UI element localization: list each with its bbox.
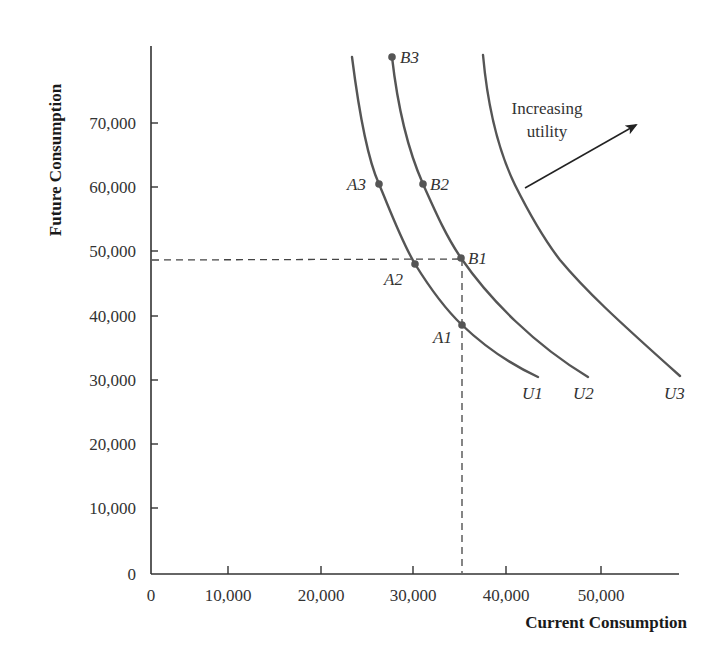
y-tick-label: 30,000 — [89, 371, 136, 390]
point-a2 — [411, 260, 419, 268]
indifference-curve-chart: 0 10,000 20,000 30,000 40,000 50,000 60,… — [0, 0, 716, 660]
label-b2: B2 — [430, 175, 449, 194]
label-u2: U2 — [573, 384, 594, 403]
label-a1: A1 — [432, 328, 452, 347]
y-tick-label: 60,000 — [89, 178, 136, 197]
x-tick-labels: 0 10,000 20,000 30,000 40,000 50,000 — [147, 586, 625, 605]
x-tick-label: 10,000 — [205, 586, 252, 605]
label-a2: A2 — [383, 270, 403, 289]
x-tick-label: 30,000 — [390, 586, 437, 605]
curve-labels: U1 U2 U3 — [522, 384, 685, 403]
y-tick-label: 10,000 — [89, 499, 136, 518]
y-tick-label: 50,000 — [89, 242, 136, 261]
label-b3: B3 — [400, 48, 419, 67]
y-tick-label: 20,000 — [89, 435, 136, 454]
label-u1: U1 — [522, 384, 543, 403]
point-a3 — [375, 180, 383, 188]
x-ticks — [228, 566, 601, 574]
point-labels: A1 A2 A3 B1 B2 B3 — [346, 48, 487, 347]
label-a3: A3 — [346, 175, 366, 194]
axes — [151, 46, 679, 574]
y-tick-label: 40,000 — [89, 307, 136, 326]
x-tick-label: 40,000 — [483, 586, 530, 605]
point-b3 — [388, 53, 396, 61]
point-b1 — [457, 254, 465, 262]
point-b2 — [419, 180, 427, 188]
y-tick-label: 0 — [128, 565, 137, 584]
point-a1 — [458, 321, 466, 329]
y-axis-title: Future Consumption — [46, 83, 65, 236]
y-ticks — [151, 123, 158, 508]
reference-lines — [152, 259, 462, 573]
horizontal-dashed-line — [152, 259, 461, 260]
label-u3: U3 — [664, 384, 685, 403]
x-axis-title: Current Consumption — [525, 613, 687, 632]
label-b1: B1 — [468, 249, 487, 268]
x-tick-label: 0 — [147, 586, 156, 605]
x-tick-label: 20,000 — [298, 586, 345, 605]
y-tick-labels: 0 10,000 20,000 30,000 40,000 50,000 60,… — [89, 114, 136, 584]
annotation-line2: utility — [527, 122, 568, 141]
y-tick-label: 70,000 — [89, 114, 136, 133]
increasing-utility-annotation: Increasing utility — [512, 99, 636, 188]
x-tick-label: 50,000 — [578, 586, 625, 605]
annotation-line1: Increasing — [512, 99, 583, 118]
